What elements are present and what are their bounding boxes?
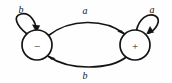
edge-minus-to-plus-path [49,22,125,35]
edge-label-loop-plus: a [150,4,155,15]
edge-minus-to-plus [49,22,126,35]
state-plus-label: + [132,40,138,52]
state-minus-label: − [34,40,40,52]
edge-label-loop-minus: b [19,4,24,15]
state-diagram: − + b a b a [0,0,172,83]
state-plus[interactable]: + [120,30,150,60]
edge-plus-to-minus [47,55,127,67]
diagram-canvas: − + b a b a [0,0,172,83]
state-minus[interactable]: − [22,30,52,60]
edge-plus-to-minus-path [49,57,128,68]
edge-label-plus-to-minus: b [83,70,88,81]
edge-label-minus-to-plus: a [83,5,88,16]
